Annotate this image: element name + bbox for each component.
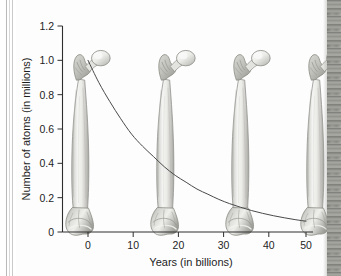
x-tick-label-2: 20: [173, 239, 185, 251]
decay-chart-figure: 1.2 1.0 0.8 0.6 0.4 0.2 0 0 10: [16, 0, 327, 276]
bone-illustrations: [66, 50, 327, 235]
decay-chart-svg: 1.2 1.0 0.8 0.6 0.4 0.2 0 0 10: [16, 0, 327, 276]
x-axis-ticks: [88, 232, 306, 237]
y-axis-tick-labels: 1.2 1.0 0.8 0.6 0.4 0.2 0: [39, 20, 54, 238]
page-edge-texture: [327, 0, 341, 276]
y-axis-title: Number of atoms (in millions): [20, 57, 32, 200]
x-tick-label-1: 10: [127, 239, 139, 251]
y-tick-label-0: 0: [48, 226, 54, 238]
x-tick-label-4: 40: [263, 239, 275, 251]
decay-curve: [88, 60, 306, 221]
y-tick-label-3: 0.6: [39, 123, 54, 135]
scanned-page: 1.2 1.0 0.8 0.6 0.4 0.2 0 0 10: [0, 0, 341, 276]
y-tick-label-2: 0.4: [39, 157, 54, 169]
x-tick-label-0: 0: [85, 239, 91, 251]
y-tick-label-6: 1.2: [39, 20, 54, 32]
bone-illustration-2: [151, 50, 195, 235]
y-tick-label-5: 1.0: [39, 54, 54, 66]
x-axis-title: Years (in billions): [149, 256, 232, 268]
x-axis-tick-labels: 0 10 20 30 40 50: [85, 239, 312, 251]
x-tick-label-3: 30: [218, 239, 230, 251]
binding-rule-outer: [6, 0, 7, 276]
binding-rule-inner: [12, 0, 13, 276]
x-tick-label-5: 50: [300, 239, 312, 251]
binding-rule-middle: [9, 0, 10, 276]
y-tick-label-4: 0.8: [39, 89, 54, 101]
bone-illustration-3: [226, 50, 270, 235]
y-tick-label-1: 0.2: [39, 192, 54, 204]
bone-illustration-1: [66, 50, 110, 235]
y-axis-ticks: [58, 26, 63, 232]
page-binding-rules: [0, 0, 16, 276]
